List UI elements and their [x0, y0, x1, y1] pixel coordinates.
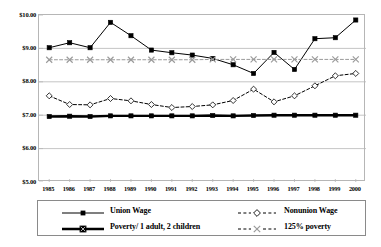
data-point-marker [210, 102, 216, 108]
data-point-marker [190, 114, 194, 118]
data-point-marker [129, 34, 133, 38]
data-point-marker [87, 102, 93, 108]
y-axis-tick-label: $9.00 [0, 44, 36, 51]
data-point-marker [251, 113, 255, 117]
data-point-marker [68, 114, 72, 118]
data-point-marker [292, 67, 296, 71]
series-line-union-wage [49, 20, 356, 73]
data-point-marker [312, 83, 318, 89]
legend-item[interactable]: Nonunion Wage [234, 203, 337, 218]
data-point-marker [148, 102, 154, 108]
y-axis-tick-label: $8.00 [0, 77, 36, 84]
data-point-marker [170, 114, 174, 118]
data-point-marker [129, 114, 133, 118]
data-point-marker [231, 114, 235, 118]
data-point-marker [333, 36, 337, 40]
y-axis-tick-label: $7.00 [0, 111, 36, 118]
plot-area [38, 14, 365, 181]
data-point-marker [189, 104, 195, 110]
data-point-marker [149, 48, 153, 52]
legend-label: Union Wage [110, 206, 151, 215]
wage-poverty-line-chart: $5.00$6.00$7.00$8.00$9.00$10.00 19851986… [0, 0, 381, 247]
series-line-poverty-1-adult-2-children [49, 115, 356, 116]
data-point-marker [47, 114, 51, 118]
legend-label: Nonunion Wage [284, 206, 337, 215]
legend-key-icon [60, 221, 106, 233]
data-point-marker [271, 99, 277, 105]
legend-label: 125% poverty [284, 222, 331, 231]
data-point-marker [272, 50, 276, 54]
legend-key-icon [60, 205, 106, 217]
data-point-marker [251, 86, 257, 92]
data-point-marker [211, 113, 215, 117]
series-line-nonunion-wage [49, 73, 356, 107]
data-point-marker [313, 37, 317, 41]
data-point-marker [128, 98, 134, 104]
data-point-marker [251, 56, 257, 62]
data-point-marker [47, 46, 51, 50]
data-point-marker [169, 105, 175, 111]
x-axis-tick-label: 2000 [342, 185, 368, 192]
data-point-marker [251, 71, 255, 75]
legend-key-icon [234, 221, 280, 233]
x-axis-labels: 1985198619871988198919901991199219931994… [38, 185, 365, 195]
data-point-marker [231, 63, 235, 67]
data-point-marker [170, 51, 174, 55]
y-axis-tick-label: $5.00 [0, 178, 36, 185]
data-point-marker [313, 113, 317, 117]
data-point-marker [108, 114, 112, 118]
data-point-marker [88, 114, 92, 118]
data-point-marker [272, 113, 276, 117]
chart-legend: Union WageNonunion WagePoverty/ 1 adult,… [37, 200, 366, 236]
data-point-marker [354, 18, 358, 22]
data-point-marker [292, 113, 296, 117]
data-point-marker [353, 70, 359, 76]
data-point-marker [108, 20, 112, 24]
data-point-marker [333, 113, 337, 117]
data-point-marker [354, 113, 358, 117]
data-point-marker [291, 93, 297, 99]
data-point-marker [230, 98, 236, 104]
data-point-marker [149, 114, 153, 118]
chart-series-layer [39, 15, 366, 182]
data-point-marker [68, 41, 72, 45]
y-axis-tick-label: $6.00 [0, 144, 36, 151]
data-point-marker [108, 96, 114, 102]
legend-item[interactable]: Union Wage [60, 203, 151, 218]
data-point-marker [88, 46, 92, 50]
data-point-marker [190, 53, 194, 57]
legend-key-icon [234, 205, 280, 217]
legend-item[interactable]: 125% poverty [234, 219, 331, 234]
data-point-marker [332, 73, 338, 79]
y-axis-tick-label: $10.00 [0, 11, 36, 18]
legend-label: Poverty/ 1 adult, 2 children [110, 222, 200, 231]
legend-item[interactable]: Poverty/ 1 adult, 2 children [60, 219, 200, 234]
data-point-marker [67, 102, 73, 108]
data-point-marker [46, 93, 52, 99]
